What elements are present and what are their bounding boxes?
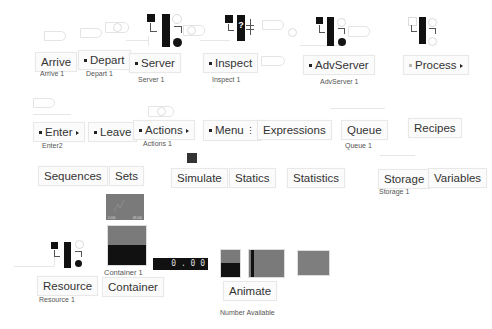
expressions-block[interactable]: Expressions xyxy=(257,120,332,140)
resource-icon[interactable] xyxy=(50,240,86,274)
number-display: 0 . 0 0 xyxy=(153,258,208,270)
storage-block[interactable]: Storage xyxy=(378,169,430,189)
port-dot-icon xyxy=(84,59,87,62)
process-icon[interactable] xyxy=(408,16,444,48)
server-caption: Server 1 xyxy=(138,76,164,83)
plot-line-icon xyxy=(106,194,144,216)
ghost-circle xyxy=(157,107,166,116)
inspect-icon[interactable]: ? xyxy=(225,15,265,45)
server-icon[interactable] xyxy=(146,13,186,49)
sets-label: Sets xyxy=(115,170,138,182)
menu-dots-icon: ⋮ xyxy=(246,126,255,136)
arrive-label: Arrive xyxy=(41,56,71,68)
port-dot-icon xyxy=(309,64,312,67)
depart-label: Depart xyxy=(90,54,125,66)
menu-block[interactable]: Menu⋮ xyxy=(203,120,261,141)
advserver-label: AdvServer xyxy=(315,59,369,71)
sets-block[interactable]: Sets xyxy=(109,166,144,186)
inspect-block[interactable]: Inspect xyxy=(203,53,258,73)
number-display-value: 0 . 0 0 xyxy=(171,259,208,268)
advserver-caption: AdvServer 1 xyxy=(320,78,359,85)
queue-caption: Queue 1 xyxy=(345,142,372,149)
ghost-arrive-shape xyxy=(44,31,66,41)
statistics-block[interactable]: Statistics xyxy=(287,168,345,188)
statics-block[interactable]: Statics xyxy=(229,168,276,188)
connector-line xyxy=(330,108,385,109)
enter-caption: Enter2 xyxy=(42,142,63,149)
plot-widget[interactable]: 0.000 48.000 xyxy=(106,194,144,220)
statistics-label: Statistics xyxy=(293,172,339,184)
output-arrow-icon xyxy=(460,64,463,68)
container-level-widget[interactable] xyxy=(107,225,147,266)
storage-label: Storage xyxy=(384,173,424,185)
enter-label: Enter xyxy=(45,126,73,138)
inspect-caption: Inspect 1 xyxy=(212,76,240,83)
ghost-circle xyxy=(187,26,196,35)
resource-label: Resource xyxy=(43,280,92,292)
animate-block[interactable]: Animate xyxy=(223,281,277,301)
animate-bar-widget[interactable] xyxy=(248,249,285,278)
port-dot-icon xyxy=(39,131,42,134)
port-dot-icon xyxy=(409,64,412,67)
animate-label: Animate xyxy=(229,285,271,297)
enter-block[interactable]: Enter xyxy=(33,122,85,142)
recipes-block[interactable]: Recipes xyxy=(408,118,462,138)
connector-line xyxy=(126,40,148,41)
resource-block[interactable]: Resource xyxy=(37,276,98,296)
depart-caption: Depart 1 xyxy=(86,70,113,77)
port-dot-icon xyxy=(139,129,142,132)
sequences-label: Sequences xyxy=(44,170,102,182)
expressions-label: Expressions xyxy=(263,124,326,136)
animate-gray-widget[interactable] xyxy=(297,250,330,276)
simulate-label: Simulate xyxy=(177,172,222,184)
port-dot-icon xyxy=(94,131,97,134)
resource-caption: Resource 1 xyxy=(39,296,75,303)
output-arrow-icon xyxy=(186,129,189,133)
queue-block[interactable]: Queue xyxy=(341,120,388,140)
plot-axis-right: 48.000 xyxy=(133,216,142,220)
statics-label: Statics xyxy=(235,172,270,184)
arrive-caption: Arrive 1 xyxy=(40,70,64,77)
simulate-block[interactable]: Simulate xyxy=(171,168,228,188)
ghost-enter-shape xyxy=(33,98,55,108)
connector-line xyxy=(33,114,71,115)
menu-label: Menu xyxy=(215,124,244,136)
process-label: Process xyxy=(415,59,457,71)
port-dot-icon xyxy=(209,129,212,132)
advserver-icon[interactable] xyxy=(316,16,356,50)
inspect-label: Inspect xyxy=(215,57,252,69)
connector-line xyxy=(380,155,415,156)
container-label: Container xyxy=(108,281,158,293)
depart-block[interactable]: Depart xyxy=(78,50,131,70)
queue-label: Queue xyxy=(347,124,382,136)
variables-block[interactable]: Variables xyxy=(428,168,487,188)
container-caption: Container 1 xyxy=(104,268,143,277)
ghost-depart-shape xyxy=(80,28,102,38)
connector-line xyxy=(14,266,54,267)
actions-block[interactable]: Actions xyxy=(133,120,195,140)
simulate-icon[interactable] xyxy=(187,153,197,163)
actions-caption: Actions 1 xyxy=(143,140,172,147)
actions-label: Actions xyxy=(145,124,183,136)
leave-label: Leave xyxy=(100,126,131,138)
ghost-circle xyxy=(288,28,297,37)
ghost-circle xyxy=(113,23,122,32)
leave-block[interactable]: Leave xyxy=(88,122,137,142)
arrive-block[interactable]: Arrive xyxy=(35,52,77,72)
ghost-inspect-out xyxy=(262,20,284,30)
advserver-block[interactable]: AdvServer xyxy=(303,55,375,75)
output-arrow-icon xyxy=(76,131,79,135)
server-block[interactable]: Server xyxy=(129,53,181,73)
process-block[interactable]: Process xyxy=(403,55,469,75)
variables-label: Variables xyxy=(434,172,481,184)
sequences-block[interactable]: Sequences xyxy=(38,166,108,186)
port-dot-icon xyxy=(209,62,212,65)
ghost-inspect-alt xyxy=(261,56,285,66)
storage-caption: Storage 1 xyxy=(379,188,409,195)
port-dot-icon xyxy=(135,62,138,65)
number-available-caption: Number Available xyxy=(220,309,275,316)
container-block[interactable]: Container xyxy=(102,277,164,297)
plot-axis-left: 0.000 xyxy=(108,216,116,220)
server-label: Server xyxy=(141,57,175,69)
animate-level-widget[interactable] xyxy=(220,249,241,278)
